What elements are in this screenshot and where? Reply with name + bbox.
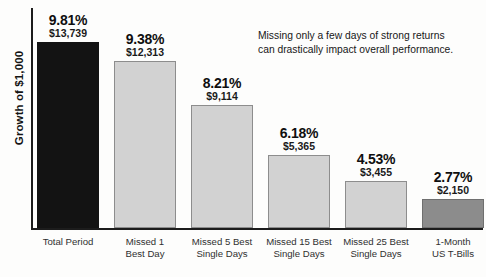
annotation-line-1: Missing only a few days of strong return…: [258, 29, 453, 43]
bar-value-labels: 9.81%$13,739: [37, 13, 99, 39]
bar-percent-label: 9.38%: [114, 32, 176, 47]
bar-amount-label: $9,114: [191, 91, 253, 102]
bar[interactable]: [37, 42, 99, 228]
bar-value-labels: 2.77%$2,150: [422, 170, 484, 196]
bar-percent-label: 8.21%: [191, 76, 253, 91]
bar-value-labels: 8.21%$9,114: [191, 76, 253, 102]
bar-amount-label: $2,150: [422, 185, 484, 196]
bar-amount-label: $12,313: [114, 47, 176, 58]
bar-value-labels: 6.18%$5,365: [268, 126, 330, 152]
bar-percent-label: 2.77%: [422, 170, 484, 185]
bar-chart: Growth of $1,000 9.81%$13,7399.38%$12,31…: [0, 0, 486, 277]
y-axis-label: Growth of $1,000: [13, 23, 25, 173]
bar-percent-label: 9.81%: [37, 13, 99, 28]
annotation-line-2: can drastically impact overall performan…: [258, 43, 453, 57]
x-axis-line: [31, 228, 483, 230]
bar-amount-label: $3,455: [345, 167, 407, 178]
bar[interactable]: [422, 199, 484, 228]
bar-slot: 9.81%$13,739: [37, 8, 99, 228]
category-line: US T-Bills: [408, 248, 486, 260]
category-line: 1-Month: [408, 236, 486, 248]
bar-percent-label: 6.18%: [268, 126, 330, 141]
bar-value-labels: 4.53%$3,455: [345, 152, 407, 178]
chart-annotation: Missing only a few days of strong return…: [258, 29, 453, 57]
bar-slot: 8.21%$9,114: [191, 8, 253, 228]
bar-value-labels: 9.38%$12,313: [114, 32, 176, 58]
bar-amount-label: $5,365: [268, 141, 330, 152]
x-axis-category-label: 1-MonthUS T-Bills: [408, 236, 486, 260]
bar-percent-label: 4.53%: [345, 152, 407, 167]
bar-slot: 9.38%$12,313: [114, 8, 176, 228]
bar[interactable]: [114, 61, 176, 228]
bar-amount-label: $13,739: [37, 28, 99, 39]
bar[interactable]: [191, 105, 253, 228]
bar[interactable]: [268, 155, 330, 228]
bar[interactable]: [345, 181, 407, 228]
